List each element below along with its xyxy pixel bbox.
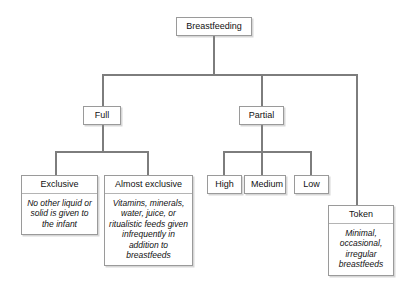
node-medium-label: Medium <box>245 176 285 193</box>
node-full-label: Full <box>84 107 120 124</box>
node-almost-exclusive-description: Vitamins, minerals, water, juice, or rit… <box>105 193 192 265</box>
connector-drop-low <box>310 151 312 176</box>
node-exclusive-description: No other liquid or solid is given to the… <box>22 193 97 234</box>
node-low[interactable]: Low <box>294 175 329 194</box>
connector-partial-children-bar <box>223 151 312 153</box>
node-token[interactable]: Token Minimal, occasional, irregular bre… <box>328 205 394 276</box>
connector-drop-medium <box>261 151 263 176</box>
node-token-label: Token <box>329 206 393 223</box>
connector-full-stem <box>102 125 104 153</box>
connector-root-stem <box>213 33 215 75</box>
node-medium[interactable]: Medium <box>244 175 286 194</box>
node-exclusive[interactable]: Exclusive No other liquid or solid is gi… <box>21 175 98 235</box>
connector-level2-bar <box>102 74 358 76</box>
connector-drop-high <box>223 151 225 176</box>
node-token-description: Minimal, occasional, irregular breastfee… <box>329 223 393 275</box>
node-almost-exclusive-label: Almost exclusive <box>105 176 192 193</box>
node-exclusive-label: Exclusive <box>22 176 97 193</box>
connector-partial-stem <box>261 125 263 153</box>
node-breastfeeding-label: Breastfeeding <box>177 18 251 35</box>
node-full[interactable]: Full <box>83 106 121 125</box>
node-low-label: Low <box>295 176 328 193</box>
connector-drop-exclusive <box>55 151 57 176</box>
connector-drop-token <box>356 74 358 206</box>
connector-drop-almost-exclusive <box>147 151 149 176</box>
connector-drop-partial <box>261 74 263 106</box>
connector-drop-full <box>102 74 104 106</box>
node-high[interactable]: High <box>207 175 242 194</box>
connector-full-children-bar <box>55 151 149 153</box>
node-high-label: High <box>208 176 241 193</box>
node-breastfeeding[interactable]: Breastfeeding <box>176 17 252 36</box>
node-partial-label: Partial <box>240 107 283 124</box>
diagram-canvas: Breastfeeding Full Partial Exclusive No … <box>0 0 403 307</box>
node-almost-exclusive[interactable]: Almost exclusive Vitamins, minerals, wat… <box>104 175 193 266</box>
node-partial[interactable]: Partial <box>239 106 284 125</box>
